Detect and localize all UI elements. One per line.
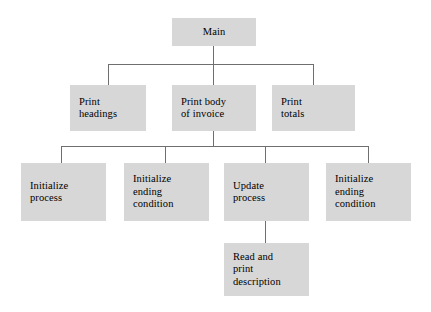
node-print-body-label: Print body of invoice [181, 96, 226, 121]
connector-level2-bus [108, 64, 314, 65]
node-print-headings-label: Print headings [79, 96, 117, 121]
node-update-process-label: Update process [233, 180, 265, 205]
node-initialize-ending-condition-2-label: Initialize ending condition [335, 173, 376, 210]
node-initialize-ending-condition-1-label: Initialize ending condition [133, 173, 174, 210]
node-read-and-print-description-label: Read and print description [233, 251, 281, 288]
node-initialize-ending-condition-2[interactable]: Initialize ending condition [326, 163, 411, 221]
node-print-totals[interactable]: Print totals [272, 85, 355, 131]
node-print-body[interactable]: Print body of invoice [172, 85, 256, 131]
connector-drop-initialize-process [61, 146, 62, 163]
connector-main-stem [213, 46, 214, 65]
connector-update-process-stem [265, 221, 266, 243]
connector-print-body-stem [213, 131, 214, 147]
structure-chart-canvas: Main Print headings Print body of invoic… [0, 0, 431, 312]
node-print-headings[interactable]: Print headings [70, 85, 146, 131]
connector-drop-print-totals [313, 64, 314, 85]
connector-drop-print-body [213, 64, 214, 85]
node-print-totals-label: Print totals [281, 96, 304, 121]
node-main[interactable]: Main [172, 18, 256, 46]
connector-drop-update-process [265, 146, 266, 163]
node-update-process[interactable]: Update process [224, 163, 309, 221]
node-initialize-ending-condition-1[interactable]: Initialize ending condition [124, 163, 209, 221]
node-initialize-process[interactable]: Initialize process [21, 163, 106, 221]
node-initialize-process-label: Initialize process [30, 180, 68, 205]
connector-level3-bus [61, 146, 368, 147]
connector-drop-initialize-ending-condition-1 [165, 146, 166, 163]
node-main-label: Main [203, 26, 226, 38]
node-read-and-print-description[interactable]: Read and print description [224, 243, 309, 296]
connector-drop-initialize-ending-condition-2 [368, 146, 369, 163]
connector-drop-print-headings [108, 64, 109, 85]
